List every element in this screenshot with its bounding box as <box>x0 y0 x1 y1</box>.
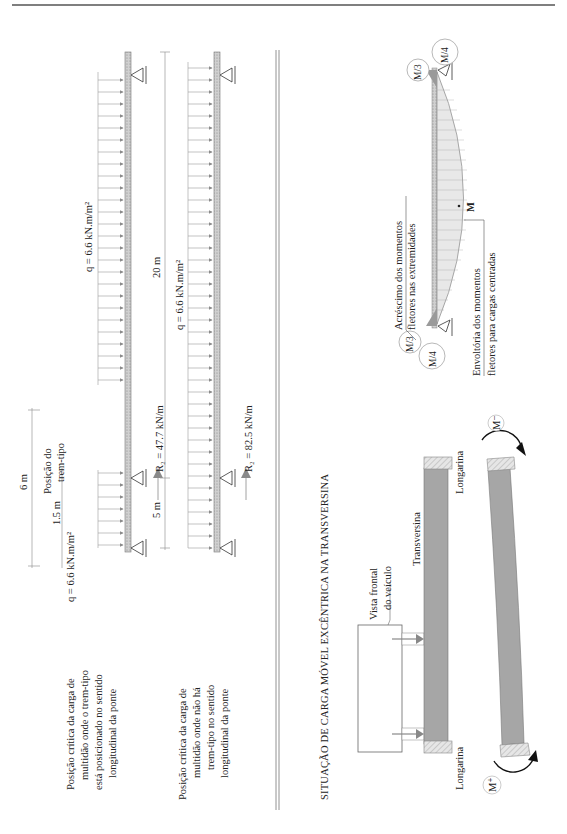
support-bottom-1 <box>131 539 146 557</box>
trem-label-1: Posição do <box>42 448 53 494</box>
reaction-label-2: R₂ = 82.5 kN/m <box>243 405 254 472</box>
book-page: 6 m 1.5 m Posição do trem-tipo q = 6.6 k… <box>0 0 567 834</box>
m-pos-label: M⁺ <box>487 777 498 792</box>
caption-1-line-3: está posicionado no sentido <box>93 674 104 790</box>
load-arrows-left-1 <box>98 470 123 548</box>
support-top-1 <box>131 66 146 84</box>
note-extremes-line-2: fletores nas extremidades <box>406 223 417 330</box>
transversina-straight <box>424 468 448 744</box>
longarina-top-label: Longarina <box>454 451 465 494</box>
note-envelope-line-2: fletores para cargas centradas <box>486 252 497 376</box>
caption-2-line-4: longitudinal da ponte <box>219 688 230 778</box>
section-title: SITUAÇÃO DE CARGA MÓVEL EXCÊNTRICA NA TR… <box>319 474 330 800</box>
moment-envelope-diagram: M/3 M/4 M/3 M/4 M Acréscimo dos momentos… <box>393 39 497 376</box>
transversina-deformed <box>488 468 524 745</box>
moment-pos-arrow[interactable] <box>494 757 534 772</box>
transversina-label: Transversina <box>411 512 422 566</box>
end-moment-bottom <box>426 308 437 326</box>
vehicle-box <box>358 625 402 752</box>
caption-1-line-2: multidão onde o trem-tipo <box>79 670 90 780</box>
longarina-bottom-label: Longarina <box>454 747 465 790</box>
caption-1-line-4: longitudinal da ponte <box>107 688 118 778</box>
m3-bottom-label: M/3 <box>405 336 415 352</box>
diagram-1-trem-tipo: 6 m 1.5 m Posição do trem-tipo q = 6.6 k… <box>18 52 165 790</box>
diagram-2-sem-trem-tipo: 20 m 5 m q = 6.6 kN.m/m² R₂ = 82.5 kN/m … <box>151 52 254 800</box>
m3-top-label: M/3 <box>413 64 423 80</box>
caption-1-line-1: Posição crítica da carga de <box>65 678 76 790</box>
reaction-label-1: R₂ = 47.7 kN/m <box>154 405 165 472</box>
caption-2-line-2: multidão onde não há <box>191 687 202 778</box>
beam-1 <box>125 52 131 552</box>
load-arrows-2 <box>188 62 212 548</box>
beam-2 <box>214 52 220 552</box>
dim-1-5m-label: 1.5 m <box>51 501 62 525</box>
dim-20m-label: 20 m <box>151 257 162 278</box>
vehicle-label-2: do veículo <box>382 566 393 610</box>
support-bottom-2 <box>220 539 235 557</box>
m-mid-label: M <box>465 202 476 212</box>
support-mid-2 <box>220 469 235 487</box>
load-label-2: q = 6.6 kN.m/m² <box>174 260 185 330</box>
m-neg-label: M⁻ <box>491 415 502 430</box>
load-left-label: q = 6.6 kN.m/m² <box>65 532 76 602</box>
note-extremes-line-1: Acréscimo dos momentos <box>393 221 404 330</box>
m4-bottom-label: M/4 <box>428 351 438 367</box>
longarina-deformed-bottom <box>500 743 530 757</box>
engineering-figure: 6 m 1.5 m Posição do trem-tipo q = 6.6 k… <box>0 0 567 834</box>
dim-5m-label: 5 m <box>151 502 162 518</box>
support-top-2 <box>220 66 235 84</box>
caption-2-line-1: Posição crítica da carga de <box>177 688 188 800</box>
m4-top-label: M/4 <box>440 47 450 63</box>
trem-label-2: trem-tipo <box>55 443 66 482</box>
load-arrows-right-1 <box>98 72 123 385</box>
dim-6m-label: 6 m <box>18 474 29 490</box>
vehicle-label-1: Vista frontal <box>368 568 379 620</box>
note-envelope-line-1: Envoltória dos momentos <box>471 268 482 376</box>
section-divider <box>276 50 279 810</box>
load-right-label: q = 6.6 kN.m/m² <box>83 202 94 272</box>
caption-2-line-3: trem-tipo no sentido <box>205 685 216 770</box>
moment-neg-arrow[interactable] <box>482 430 522 450</box>
longarina-bottom-block <box>424 741 452 753</box>
longarina-top-block <box>424 457 452 469</box>
support-bottom-moment <box>438 318 452 336</box>
longarina-deformed-top <box>487 457 515 471</box>
support-mid-1 <box>131 469 146 487</box>
dimension-6m <box>28 408 40 568</box>
transversina-beam <box>432 68 437 328</box>
transversina-eccentric-load: Vista frontal do veículo Transversina Lo… <box>358 415 538 794</box>
